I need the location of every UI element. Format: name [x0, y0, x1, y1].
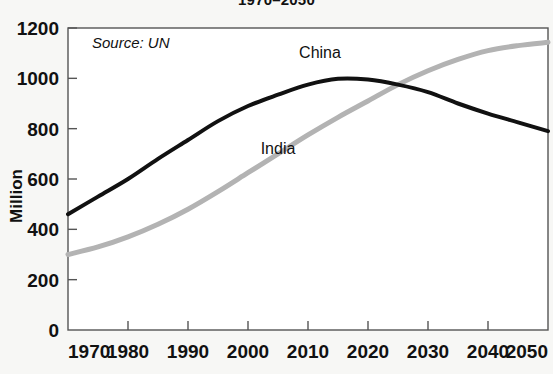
series-label-china: China — [299, 44, 341, 61]
y-tick-label: 600 — [27, 169, 59, 190]
source-annotation: Source: UN — [92, 34, 170, 51]
chart-plot-svg: 020040060080010001200 197019801990200020… — [0, 0, 553, 374]
x-axis-tick-labels: 197019801990200020102020203020402050 — [68, 341, 548, 362]
x-tick-label: 2040 — [467, 341, 509, 362]
population-line-chart: 1970–2050 020040060080010001200 19701980… — [0, 0, 553, 374]
y-axis-title: Million — [7, 169, 26, 223]
plot-area-background — [68, 28, 548, 330]
x-tick-label: 1980 — [107, 341, 149, 362]
x-tick-label: 2010 — [287, 341, 329, 362]
plot-frame — [68, 28, 548, 330]
x-tick-label: 2030 — [407, 341, 449, 362]
x-tick-label: 1970 — [68, 341, 110, 362]
y-tick-label: 1200 — [17, 18, 59, 39]
x-tick-label: 1990 — [167, 341, 209, 362]
x-tick-label: 2050 — [506, 341, 548, 362]
y-tick-label: 0 — [48, 320, 59, 341]
y-tick-label: 1000 — [17, 68, 59, 89]
y-tick-label: 400 — [27, 219, 59, 240]
y-tick-label: 200 — [27, 270, 59, 291]
x-tick-label: 2020 — [347, 341, 389, 362]
y-tick-label: 800 — [27, 119, 59, 140]
x-tick-label: 2000 — [227, 341, 269, 362]
series-label-india: India — [261, 140, 296, 157]
